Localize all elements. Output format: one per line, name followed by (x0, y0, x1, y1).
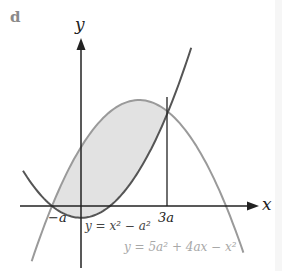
equation-upward-parabola: y = x² − a² (85, 219, 151, 233)
tick-label-neg-a: −a (48, 210, 67, 225)
shaded-region (52, 100, 168, 218)
x-axis-label: x (262, 194, 272, 214)
tick-label-3a: 3a (158, 210, 174, 225)
y-axis-arrow-icon (77, 38, 86, 50)
x-axis-arrow-icon (247, 202, 259, 211)
figure-panel: d y x −a 3a y = x² − a² y = 5a² + 4ax − … (0, 0, 282, 271)
y-axis-label: y (75, 14, 85, 34)
equation-downward-parabola: y = 5a² + 4ax − x² (124, 240, 237, 254)
